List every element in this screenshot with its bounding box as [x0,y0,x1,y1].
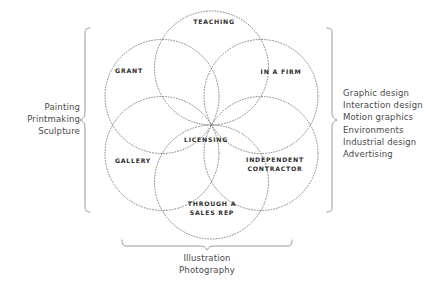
venn-label-in-a-firm: IN A FIRM [261,68,302,77]
right-annotation-text: Graphic design Interaction design Motion… [343,87,438,160]
venn-label-independent-contractor: INDEPENDENT CONTRACTOR [246,156,304,173]
diagram-canvas: TEACHING GRANT IN A FIRM LICENSING GALLE… [0,0,441,287]
venn-label-gallery: GALLERY [115,157,151,166]
venn-label-grant: GRANT [115,67,143,76]
bottom-annotation-text: Illustration Photography [147,252,267,276]
right-brace [327,28,337,212]
venn-label-through-a-sales-rep: THROUGH A SALES REP [188,200,236,217]
venn-label-teaching: TEACHING [193,18,235,27]
venn-label-licensing: LICENSING [184,136,228,145]
left-annotation-text: Painting Printmaking Sculpture [8,101,80,138]
left-brace [80,28,90,212]
bottom-brace [122,240,292,250]
